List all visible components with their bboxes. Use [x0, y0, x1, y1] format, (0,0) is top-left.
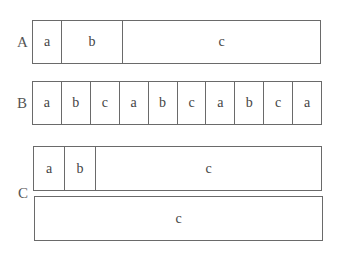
row-b-cell: a — [120, 82, 149, 124]
row-a-cell-c: c — [123, 21, 320, 63]
row-c-top-cell-b: b — [65, 147, 96, 190]
row-c-top-box: a b c — [33, 146, 322, 191]
row-c-top-cell-c: c — [96, 147, 321, 190]
row-b-cell: c — [264, 82, 293, 124]
row-b-cell: a — [206, 82, 235, 124]
row-c-bottom-cell-c: c — [35, 197, 322, 240]
row-b-cell: c — [91, 82, 120, 124]
row-c-bottom-box: c — [34, 196, 323, 241]
row-c-top-cell-a: a — [34, 147, 65, 190]
row-b-box: a b c a b c a b c a — [32, 81, 322, 125]
row-b-cell: a — [33, 82, 62, 124]
row-label-c: C — [18, 186, 28, 201]
row-label-b: B — [17, 96, 27, 111]
row-label-a: A — [17, 35, 28, 50]
row-b-cell: b — [235, 82, 264, 124]
row-a-cell-a: a — [33, 21, 62, 63]
row-b-cell: a — [293, 82, 321, 124]
row-a-box: a b c — [32, 20, 321, 64]
row-a-cell-b: b — [62, 21, 123, 63]
row-b-cell: b — [62, 82, 91, 124]
row-b-cell: c — [178, 82, 207, 124]
row-b-cell: b — [149, 82, 178, 124]
